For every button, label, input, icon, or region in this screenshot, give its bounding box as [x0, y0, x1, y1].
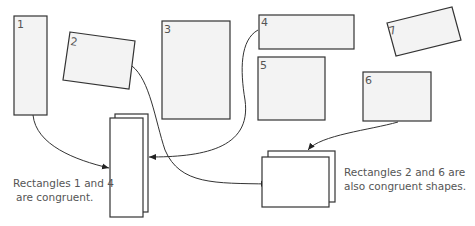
rectangle-3: 3 — [162, 21, 230, 119]
rectangle-1-label: 1 — [17, 18, 24, 31]
rectangle-4-label: 4 — [261, 16, 268, 29]
rectangle-5: 5 — [258, 57, 325, 120]
caption-right-line1: Rectangles 2 and 6 are — [344, 165, 466, 179]
rectangle-6-label: 6 — [365, 74, 372, 87]
stack-rectangles-2-6 — [262, 151, 335, 207]
caption-left: Rectangles 1 and 4 are congruent. — [13, 176, 114, 204]
arrow-6-to-stack — [308, 122, 398, 150]
arrow-1-to-stack — [33, 115, 109, 168]
stack-rectangles-1-4 — [110, 114, 148, 217]
rectangle-5-label: 5 — [260, 59, 267, 72]
caption-right-line2: also congruent shapes. — [344, 179, 466, 193]
caption-right: Rectangles 2 and 6 are also congruent sh… — [344, 165, 466, 193]
rectangle-6: 6 — [363, 72, 431, 121]
rectangle-3-label: 3 — [164, 23, 171, 36]
rectangle-2: 2 — [63, 32, 135, 89]
caption-left-line1: Rectangles 1 and 4 — [13, 176, 114, 190]
rectangle-7: 7 — [387, 7, 461, 56]
caption-left-line2: are congruent. — [13, 190, 114, 204]
rectangle-4: 4 — [259, 15, 354, 49]
rectangle-1: 1 — [14, 16, 47, 115]
